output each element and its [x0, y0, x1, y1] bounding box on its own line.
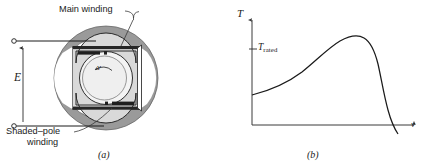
label-shaded-pole-winding-line2: winding	[27, 138, 58, 147]
label-rotation-speed-v: v	[97, 63, 101, 72]
caption-panel-a: (a)	[98, 150, 110, 160]
motor-cross-section	[12, 11, 158, 132]
rated-torque-subscript: rated	[263, 46, 277, 53]
label-shaded-pole-winding-line1: Shaded–pole	[6, 127, 60, 136]
label-supply-voltage-E: E	[14, 72, 21, 84]
label-main-winding: Main winding	[59, 5, 113, 14]
label-x-axis-speed: v	[411, 120, 415, 129]
rotor	[80, 52, 133, 105]
label-rated-torque: Trated	[258, 43, 277, 53]
figure-graphics	[0, 0, 426, 168]
caption-panel-b: (b)	[307, 150, 319, 160]
label-y-axis-torque: T	[237, 8, 243, 19]
figure-root: Main winding Shaded–pole winding E v (a)…	[0, 0, 426, 168]
torque-speed-chart	[249, 20, 414, 134]
